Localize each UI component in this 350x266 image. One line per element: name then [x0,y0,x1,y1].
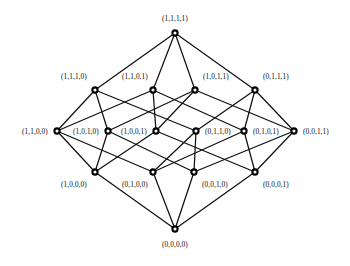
graph-canvas [0,0,350,266]
node-label: (0,0,0,1) [263,181,289,188]
graph-node[interactable] [92,169,97,174]
node-label: (0,0,0,0) [162,241,188,248]
graph-edge [153,90,244,131]
graph-edge [244,131,255,172]
graph-edge [194,131,196,172]
graph-edge [108,131,194,172]
node-label: (0,1,0,1) [253,128,279,135]
node-label: (1,1,1,1) [162,15,188,22]
node-label: (1,0,0,0) [61,181,87,188]
graph-node[interactable] [252,169,257,174]
graph-node[interactable] [172,226,177,231]
graph-edge [95,33,175,90]
graph-edge [57,90,95,131]
node-label: (0,1,0,0) [122,181,148,188]
graph-edge [57,90,153,131]
node-label: (1,0,1,1) [203,73,229,80]
graph-edge [156,90,195,131]
graph-node[interactable] [150,87,155,92]
graph-edge [153,90,156,131]
graph-edge [255,90,294,131]
graph-node[interactable] [92,87,97,92]
graph-edge [194,131,294,172]
graph-node[interactable] [241,128,246,133]
graph-node[interactable] [252,87,257,92]
graph-node[interactable] [54,128,59,133]
node-label: (1,1,0,1) [122,73,148,80]
graph-node[interactable] [153,128,158,133]
graph-edge [153,131,196,172]
node-label: (1,1,1,0) [61,73,87,80]
graph-node[interactable] [192,87,197,92]
graph-node[interactable] [291,128,296,133]
graph-edge [57,131,95,172]
node-label: (0,1,1,1) [263,73,289,80]
graph-node[interactable] [150,169,155,174]
node-label: (1,0,0,1) [121,128,147,135]
graph-node[interactable] [105,128,110,133]
node-label: (1,0,1,0) [73,128,99,135]
graph-edge [175,33,195,90]
graph-edge [175,33,255,90]
node-label: (0,0,1,1) [303,128,329,135]
graph-node[interactable] [193,128,198,133]
graph-edge [153,131,244,172]
graph-edge [195,90,294,131]
graph-edge [255,131,294,172]
node-label: (0,0,1,0) [202,181,228,188]
hasse-diagram-figure: (1,1,1,1)(1,1,1,0)(1,1,0,1)(1,0,1,1)(0,1… [0,0,350,266]
graph-edge [175,172,194,229]
graph-node[interactable] [191,169,196,174]
node-label: (1,1,0,0) [22,128,48,135]
node-label: (0,1,1,0) [205,128,231,135]
graph-node[interactable] [172,30,177,35]
graph-edge [156,131,255,172]
